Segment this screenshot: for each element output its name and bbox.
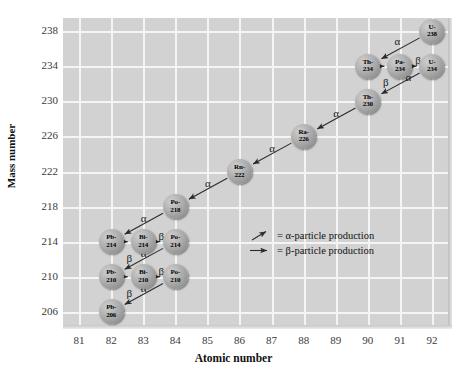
decay-label-beta: β [126,287,132,299]
legend-item-beta: = β-particle production [247,243,374,258]
nuclide-mass: 226 [299,136,309,144]
x-tick-label: 82 [96,334,126,346]
y-tick-label: 234 [28,60,58,71]
nuclide-th-234: Th-234 [355,54,380,79]
nuclide-pb-210: Pb-210 [99,264,124,289]
nuclide-po-218: Po-218 [163,194,188,219]
decay-label-beta: β [126,252,132,264]
nuclide-mass: 214 [138,242,148,250]
legend-label-beta: = β-particle production [277,245,374,256]
nuclide-mass: 234 [427,66,437,74]
y-tick-label: 222 [28,166,58,177]
nuclide-pb-214: Pb-214 [99,229,124,254]
nuclide-mass: 234 [395,66,405,74]
y-tick-label: 238 [28,25,58,36]
decay-label-alpha: α [333,107,339,119]
decay-label-alpha: α [269,142,275,154]
gridline-horizontal [63,207,448,209]
decay-series-chart: 206210214218222226230234238 Mass number … [0,0,467,379]
y-tick-label: 218 [28,201,58,212]
y-axis-title: Mass number [5,101,17,211]
x-tick-label: 92 [417,334,447,346]
nuclide-mass: 238 [427,31,437,39]
nuclide-th-230: Th-230 [355,89,380,114]
panel-bottom-bevel [63,325,452,329]
nuclide-rn-222: Rn-222 [227,159,252,184]
nuclide-mass: 234 [363,66,373,74]
gridline-horizontal [63,31,448,33]
nuclide-mass: 214 [106,242,116,250]
panel-right-bevel [448,18,452,328]
legend-label-alpha: = α-particle production [277,230,374,241]
decay-label-alpha: α [141,212,147,224]
y-tick-label: 214 [28,236,58,247]
decay-label-alpha: α [395,35,401,47]
y-axis-ticks: 206210214218222226230234238 [22,0,58,379]
nuclide-mass: 210 [138,277,148,285]
nuclide-mass: 214 [170,242,180,250]
gridline-horizontal [63,136,448,138]
x-tick-label: 83 [128,334,158,346]
nuclide-pa-234: Pa-234 [387,54,412,79]
beta-arrow-icon [247,244,273,257]
x-axis-ticks: 818283848586878889909192 [0,334,467,350]
nuclide-bi-214: Bi-214 [131,229,156,254]
y-tick-label: 230 [28,95,58,106]
y-tick-label: 226 [28,130,58,141]
nuclide-po-210: Po-210 [163,264,188,289]
gridline-horizontal [63,172,448,174]
nuclide-bi-210: Bi-210 [131,264,156,289]
nuclide-mass: 230 [363,101,373,109]
y-tick-label: 206 [28,306,58,317]
x-tick-label: 89 [321,334,351,346]
x-tick-label: 81 [64,334,94,346]
y-tick-label: 210 [28,271,58,282]
nuclide-mass: 218 [170,207,180,215]
nuclide-po-214: Po-214 [163,229,188,254]
nuclide-mass: 222 [235,172,245,180]
nuclide-u-238: U-238 [419,19,444,44]
nuclide-mass: 210 [170,277,180,285]
x-tick-label: 85 [192,334,222,346]
x-tick-label: 84 [160,334,190,346]
decay-label-beta: β [383,76,389,88]
x-tick-label: 87 [257,334,287,346]
x-tick-label: 91 [385,334,415,346]
x-tick-label: 86 [224,334,254,346]
nuclide-ra-226: Ra-226 [291,124,316,149]
nuclide-pb-206: Pb-206 [99,299,124,324]
x-axis-title: Atomic number [0,352,467,364]
nuclide-mass: 206 [106,312,116,320]
gridline-horizontal [63,101,448,103]
x-tick-label: 88 [289,334,319,346]
legend: = α-particle production = β-particle pro… [247,228,374,258]
legend-item-alpha: = α-particle production [247,228,374,243]
nuclide-mass: 210 [106,277,116,285]
x-tick-label: 90 [353,334,383,346]
decay-label-alpha: α [205,177,211,189]
alpha-arrow-icon [247,229,273,242]
